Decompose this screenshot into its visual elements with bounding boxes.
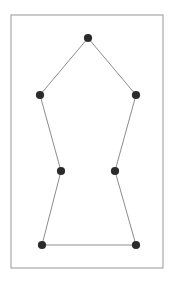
vertex-dot-middle-left bbox=[57, 167, 65, 175]
vertex-dot-upper-left bbox=[36, 91, 44, 99]
border-frame bbox=[11, 15, 163, 268]
vertex-dot-upper-right bbox=[132, 91, 140, 99]
vertex-dot-middle-right bbox=[111, 167, 119, 175]
vertex-dot-top-apex bbox=[84, 34, 92, 42]
figure-container bbox=[0, 0, 174, 285]
vertex-dot-bottom-left bbox=[38, 241, 46, 249]
vertex-dot-bottom-right bbox=[132, 241, 140, 249]
polygon-diagram-svg bbox=[0, 0, 174, 285]
